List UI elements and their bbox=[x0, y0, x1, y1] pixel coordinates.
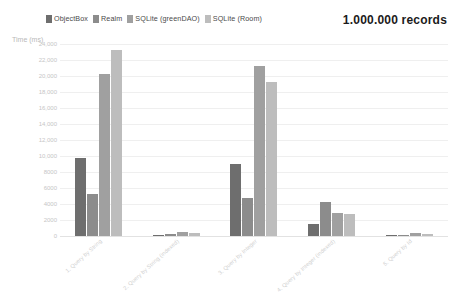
bar bbox=[242, 198, 253, 236]
bar bbox=[254, 66, 265, 236]
y-axis-tick-label: 0 bbox=[54, 233, 57, 239]
bar bbox=[87, 194, 98, 236]
chart-title: 1.000.000 records bbox=[343, 13, 447, 27]
x-axis-label-cell: 4. Query by Integer (indexed) bbox=[293, 238, 371, 294]
bar bbox=[344, 214, 355, 236]
x-axis-label-cell: 5. Query by Id bbox=[370, 238, 448, 294]
bar bbox=[422, 234, 433, 236]
bar-groups bbox=[60, 44, 448, 236]
plot-area: 24,00022,00020,00018,00016,00014,00012,0… bbox=[60, 44, 448, 236]
legend-item-sqlite-room: SQLite (Room) bbox=[205, 14, 262, 23]
bar bbox=[75, 158, 86, 236]
x-axis-labels: 1. Query by String2. Query by String (in… bbox=[60, 238, 448, 294]
legend-label-sqlite-room: SQLite (Room) bbox=[213, 14, 262, 23]
bar bbox=[153, 235, 164, 236]
bar bbox=[386, 235, 397, 236]
y-axis-tick-label: 24,000 bbox=[39, 41, 57, 47]
bar bbox=[308, 224, 319, 236]
bar bbox=[111, 50, 122, 236]
bar-group bbox=[215, 44, 293, 236]
bar bbox=[320, 202, 331, 236]
y-axis-tick-label: 16,000 bbox=[39, 105, 57, 111]
bar bbox=[189, 233, 200, 236]
x-axis-label-cell: 2. Query by String (indexed) bbox=[138, 238, 216, 294]
y-axis-tick-label: 10,000 bbox=[39, 153, 57, 159]
legend-swatch-sqlite-room bbox=[205, 15, 211, 23]
bar bbox=[177, 232, 188, 236]
y-axis-tick-label: 20,000 bbox=[39, 73, 57, 79]
legend-label-realm: Realm bbox=[101, 14, 122, 23]
legend-item-objectbox: ObjectBox bbox=[46, 14, 88, 23]
bar-group bbox=[138, 44, 216, 236]
bar-chart: ObjectBox Realm SQLite (greenDAO) SQLite… bbox=[0, 0, 459, 295]
bar bbox=[398, 235, 409, 236]
y-axis-tick-label: 22,000 bbox=[39, 57, 57, 63]
bar bbox=[332, 213, 343, 236]
legend-label-objectbox: ObjectBox bbox=[54, 14, 88, 23]
bar bbox=[99, 74, 110, 236]
y-axis-tick-label: 4000 bbox=[44, 201, 57, 207]
bar-group bbox=[370, 44, 448, 236]
legend-label-sqlite-greendao: SQLite (greenDAO) bbox=[135, 14, 199, 23]
legend-swatch-objectbox bbox=[46, 15, 52, 23]
legend-swatch-sqlite-greendao bbox=[127, 15, 133, 23]
legend-item-realm: Realm bbox=[93, 14, 122, 23]
y-axis-tick-label: 6000 bbox=[44, 185, 57, 191]
bar bbox=[266, 82, 277, 236]
bar-group bbox=[293, 44, 371, 236]
bar-group bbox=[60, 44, 138, 236]
legend-item-sqlite-greendao: SQLite (greenDAO) bbox=[127, 14, 199, 23]
bar bbox=[410, 233, 421, 236]
x-axis-tick-label: 1. Query by String bbox=[64, 238, 103, 274]
y-axis-tick-label: 8000 bbox=[44, 169, 57, 175]
chart-legend: ObjectBox Realm SQLite (greenDAO) SQLite… bbox=[46, 14, 262, 23]
y-axis-tick-label: 14,000 bbox=[39, 121, 57, 127]
y-axis-tick-label: 18,000 bbox=[39, 89, 57, 95]
x-axis-tick-label: 5. Query by Id bbox=[382, 238, 413, 267]
bar bbox=[230, 164, 241, 236]
y-axis-tick-label: 12,000 bbox=[39, 137, 57, 143]
x-axis-tick-label: 3. Query by Integer bbox=[217, 238, 258, 276]
y-axis-tick-label: 2000 bbox=[44, 217, 57, 223]
legend-swatch-realm bbox=[93, 15, 99, 23]
bar bbox=[165, 234, 176, 236]
